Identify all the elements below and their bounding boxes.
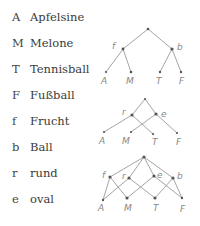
leaf-M: [125, 196, 128, 199]
label-T: T: [153, 203, 160, 213]
node-r: [127, 176, 130, 179]
label-M: M: [122, 136, 130, 146]
node-e: [154, 112, 157, 115]
label-r: r: [122, 171, 127, 181]
node-b: [170, 47, 173, 50]
label-F: F: [176, 137, 182, 147]
node-e: [152, 174, 155, 177]
leaf-M: [130, 131, 132, 133]
label-T: T: [152, 137, 159, 147]
leaf-F: [176, 132, 178, 134]
label-f: f: [112, 41, 117, 51]
label-M: M: [124, 203, 132, 213]
diagrams-canvas: f b A M T F r e A M T F: [0, 0, 200, 226]
leaf-F: [181, 197, 183, 199]
root-node: [142, 155, 145, 158]
leaf-A: [105, 71, 107, 73]
label-T: T: [156, 76, 163, 86]
label-f: f: [102, 170, 107, 180]
lattice-combined: f r e b A M T F: [97, 155, 186, 214]
label-A: A: [98, 136, 105, 146]
root-node: [147, 28, 150, 31]
label-A: A: [97, 203, 104, 213]
label-F: F: [180, 204, 186, 214]
leaf-M: [130, 71, 133, 74]
leaf-T: [152, 133, 154, 135]
label-b: b: [177, 42, 183, 52]
label-F: F: [179, 76, 185, 86]
leaf-T: [159, 71, 161, 73]
label-r: r: [122, 107, 127, 117]
label-e: e: [161, 109, 167, 119]
leaf-A: [102, 199, 104, 201]
label-M: M: [126, 76, 134, 86]
node-b: [171, 176, 174, 179]
tree-frucht-ball: f b A M T F: [100, 28, 185, 86]
root-node: [144, 98, 146, 100]
label-e: e: [157, 170, 163, 180]
node-r: [130, 113, 133, 116]
node-f: [122, 48, 125, 51]
tree-rund-oval: r e A M T F: [98, 98, 182, 147]
leaf-A: [103, 131, 105, 133]
leaf-T: [153, 196, 156, 199]
node-f: [108, 175, 111, 178]
leaf-F: [180, 71, 182, 73]
label-A: A: [100, 76, 107, 86]
label-b: b: [177, 171, 183, 181]
